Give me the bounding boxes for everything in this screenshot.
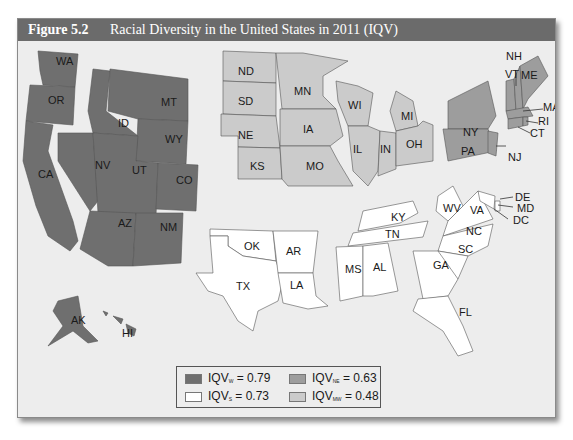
label-va: VA: [470, 204, 485, 216]
legend-item-midwest: IQVMW = 0.48: [289, 388, 379, 404]
label-mi: MI: [401, 110, 413, 122]
legend-item-west: IQVW = 0.79: [185, 370, 270, 386]
label-sc: SC: [458, 243, 473, 255]
label-la: LA: [290, 279, 304, 291]
label-nh: NH: [506, 50, 522, 62]
label-ga: GA: [433, 259, 450, 271]
label-me: ME: [521, 69, 538, 81]
state-de: [495, 201, 500, 211]
label-mt: MT: [161, 96, 177, 108]
label-dc: DC: [513, 214, 529, 226]
label-nv: NV: [95, 159, 111, 171]
label-hi: HI: [122, 327, 133, 339]
label-wy: WY: [165, 133, 183, 145]
label-mo: MO: [306, 160, 324, 172]
state-il: [348, 126, 380, 186]
label-ar: AR: [286, 245, 301, 257]
state-co: [156, 163, 198, 211]
label-ri: RI: [538, 115, 549, 127]
label-ut: UT: [132, 164, 147, 176]
label-il: IL: [353, 143, 362, 155]
label-co: CO: [176, 174, 193, 186]
state-nj: [488, 131, 498, 156]
label-ms: MS: [345, 263, 362, 275]
label-ia: IA: [303, 123, 314, 135]
label-or: OR: [48, 94, 65, 106]
label-nc: NC: [466, 225, 482, 237]
label-ne: NE: [238, 129, 253, 141]
map-legend: IQVW = 0.79 IQVNE = 0.63 IQVS = 0.73 IQV…: [176, 366, 381, 408]
label-sd: SD: [238, 95, 253, 107]
label-nd: ND: [238, 65, 254, 77]
label-ak: AK: [71, 314, 86, 326]
state-ny: [448, 81, 496, 129]
label-id: ID: [118, 117, 129, 129]
label-ma: MA: [543, 101, 555, 113]
label-wv: WV: [443, 202, 461, 214]
label-ny: NY: [463, 126, 479, 138]
label-md: MD: [517, 202, 534, 214]
state-mt: [108, 69, 188, 121]
label-nm: NM: [160, 221, 177, 233]
label-oh: OH: [406, 138, 423, 150]
figure-title: Racial Diversity in the United States in…: [110, 19, 398, 41]
label-ok: OK: [244, 240, 261, 252]
label-tn: TN: [385, 228, 400, 240]
us-map: WA OR CA ID MT WY NV UT CO AZ NM AK HI N…: [18, 41, 555, 361]
state-ct: [508, 117, 523, 129]
legend-swatch-northeast: [289, 374, 306, 384]
label-vt: VT: [505, 68, 519, 80]
label-wa: WA: [56, 55, 74, 67]
label-al: AL: [373, 261, 386, 273]
label-wi: WI: [348, 99, 361, 111]
legend-swatch-west: [185, 374, 202, 384]
legend-item-northeast: IQVNE = 0.63: [289, 370, 377, 386]
label-nj: NJ: [508, 151, 521, 163]
legend-item-south: IQVS = 0.73: [185, 388, 269, 404]
figure-number: Figure 5.2: [28, 19, 88, 41]
label-mn: MN: [294, 85, 311, 97]
label-az: AZ: [118, 217, 132, 229]
label-ct: CT: [530, 127, 545, 139]
legend-swatch-midwest: [289, 392, 306, 402]
label-ky: KY: [391, 211, 406, 223]
state-fl: [413, 296, 473, 356]
label-tx: TX: [236, 280, 251, 292]
label-ca: CA: [38, 168, 54, 180]
label-ks: KS: [250, 160, 265, 172]
label-fl: FL: [459, 306, 472, 318]
legend-swatch-south: [185, 392, 202, 402]
figure-panel: Figure 5.2 Racial Diversity in the Unite…: [17, 18, 556, 418]
label-pa: PA: [461, 145, 476, 157]
label-in: IN: [380, 143, 391, 155]
figure-header: Figure 5.2 Racial Diversity in the Unite…: [18, 19, 555, 41]
